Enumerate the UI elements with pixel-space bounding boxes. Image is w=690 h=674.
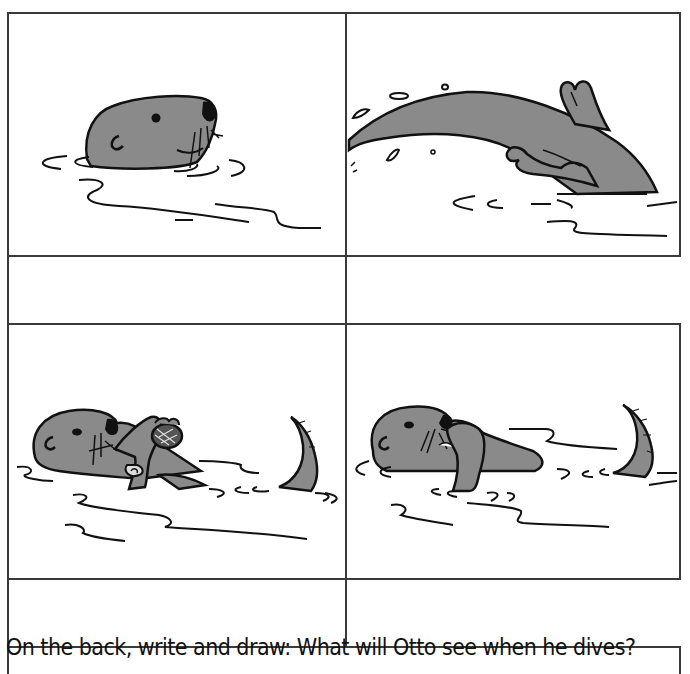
- panel-3-illustration: [9, 325, 345, 578]
- otter-floating-on-back-holding-shell-icon: [9, 325, 345, 578]
- panel-2-writing-box[interactable]: [347, 257, 681, 323]
- otter-floating-on-back-eating-icon: [347, 325, 681, 578]
- otter-diving-with-flippers-icon: [347, 14, 681, 255]
- panel-1-writing-box[interactable]: [9, 257, 345, 323]
- center-divider-line: [345, 14, 347, 646]
- panel-2-illustration: [347, 14, 681, 255]
- panel-1-illustration: [9, 14, 345, 255]
- otter-head-peeking-from-water-icon: [9, 14, 345, 255]
- worksheet-frame: [7, 12, 681, 674]
- worksheet-prompt: On the back, write and draw: What will O…: [6, 633, 635, 661]
- panel-4-illustration: [347, 325, 681, 578]
